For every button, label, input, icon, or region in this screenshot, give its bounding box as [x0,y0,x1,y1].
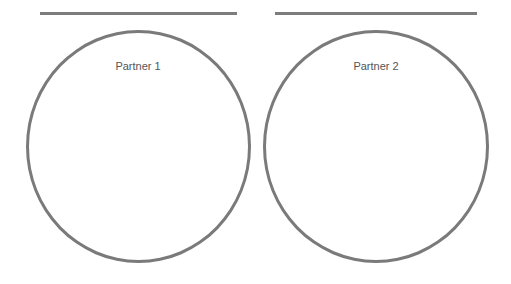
partner-2-label: Partner 2 [316,60,436,72]
partner-2-name-line [275,12,477,15]
partner-1-label: Partner 1 [78,60,198,72]
partner-1-name-line [40,12,237,15]
